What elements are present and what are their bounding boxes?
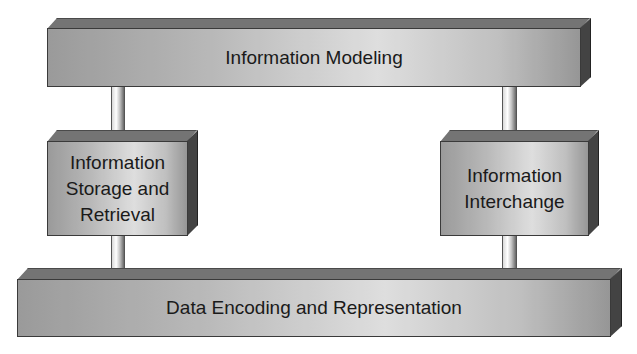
data-encoding-front-face: Data Encoding and Representation — [17, 279, 611, 337]
interchange-side-face — [588, 130, 599, 236]
storage-retrieval-front-face: Information Storage and Retrieval — [47, 141, 188, 236]
information-modeling-side-face — [580, 18, 591, 87]
storage-retrieval-side-face — [187, 130, 198, 236]
interchange-front-face: Information Interchange — [440, 141, 589, 236]
information-modeling-label: Information Modeling — [225, 45, 402, 71]
information-modeling-front-face: Information Modeling — [47, 28, 581, 87]
layered-architecture-diagram: Information Modeling Information Storage… — [0, 0, 637, 354]
storage-retrieval-label: Information Storage and Retrieval — [66, 150, 170, 228]
interchange-label: Information Interchange — [464, 163, 564, 215]
data-encoding-label: Data Encoding and Representation — [166, 295, 462, 321]
data-encoding-side-face — [610, 268, 622, 337]
